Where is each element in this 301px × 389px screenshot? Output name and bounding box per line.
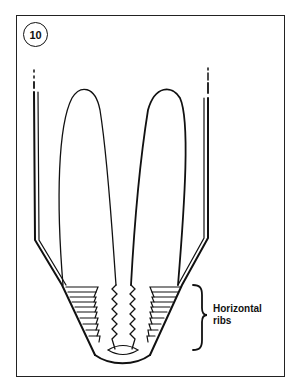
right-rib [151, 307, 170, 312]
left-rib [83, 324, 98, 330]
right-post-threads [130, 285, 135, 349]
right-ribs [147, 287, 180, 342]
right-rib [149, 324, 161, 330]
annotation-line-2: ribs [213, 315, 262, 327]
right-rib [148, 330, 158, 336]
right-root-canal [131, 89, 186, 285]
left-rib [80, 318, 98, 324]
right-rib [147, 336, 155, 342]
right-rib [152, 292, 178, 297]
root-diagram [0, 0, 301, 389]
left-outer-wall [34, 92, 95, 355]
left-rib [70, 297, 96, 302]
right-rib [151, 302, 173, 307]
apex-foramen [108, 346, 138, 355]
annotation-label: Horizontal ribs [213, 303, 262, 327]
right-outer-wall [150, 98, 208, 355]
brace-bracket [193, 285, 207, 350]
left-rib [77, 312, 97, 318]
apex-curve [95, 355, 150, 363]
right-rib [152, 297, 176, 302]
annotation-line-1: Horizontal [213, 303, 262, 315]
left-post-threads [112, 285, 117, 349]
left-root-canal [59, 89, 116, 285]
left-ribs [66, 287, 100, 342]
left-rib [86, 330, 99, 336]
right-rib [150, 318, 164, 324]
right-rib [150, 312, 167, 318]
left-inner-wall [38, 92, 66, 285]
left-rib [89, 336, 100, 342]
left-rib [66, 287, 98, 292]
right-rib [150, 287, 180, 292]
left-rib [68, 292, 96, 297]
left-rib [75, 307, 97, 312]
right-inner-wall [178, 98, 204, 285]
left-rib [72, 302, 96, 307]
